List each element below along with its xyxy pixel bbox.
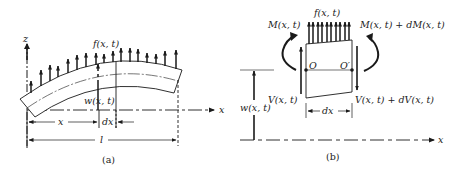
moment-right-label: M(x, t) + dM(x, t): [359, 19, 445, 30]
point-o-prime-label: O′: [340, 60, 351, 71]
moment-left-label: M(x, t): [267, 19, 301, 30]
caption-b: (b): [326, 151, 340, 162]
dx-dimension-b: dx: [306, 103, 352, 118]
z-axis-label: z: [22, 33, 29, 44]
load-label-b: f(x, t): [313, 7, 340, 18]
x-dimension: x: [29, 116, 97, 127]
shear-right-label: V(x, t) + dV(x, t): [355, 94, 434, 105]
beam-vibration-figure: z x: [0, 0, 468, 175]
x-axis-label: x: [219, 104, 225, 115]
moment-right-arrow: [364, 38, 378, 71]
x-axis-b-label: x: [438, 134, 444, 145]
point-o: [304, 68, 308, 72]
deflection-label: w(x, t): [84, 95, 115, 106]
dx-label-b: dx: [322, 105, 334, 116]
caption-a: (a): [102, 154, 115, 165]
shear-left-label: V(x, t): [268, 94, 298, 105]
x-dimension-label: x: [58, 116, 64, 127]
figure-b: x w(x, t) O O′ f(x, t) M(x: [240, 7, 445, 162]
moment-left-arrow: [283, 36, 296, 70]
dx-label: dx: [102, 116, 114, 127]
length-dimension: l: [29, 134, 176, 145]
length-label: l: [100, 134, 103, 145]
point-o-label: O: [309, 60, 317, 71]
deflected-beam: [20, 61, 182, 117]
load-label: f(x, t): [92, 38, 119, 49]
dx-dimension: dx: [102, 116, 134, 127]
deflection-label-b: w(x, t): [240, 102, 271, 113]
point-o-prime: [350, 68, 354, 72]
figure-a: z x: [20, 33, 225, 165]
